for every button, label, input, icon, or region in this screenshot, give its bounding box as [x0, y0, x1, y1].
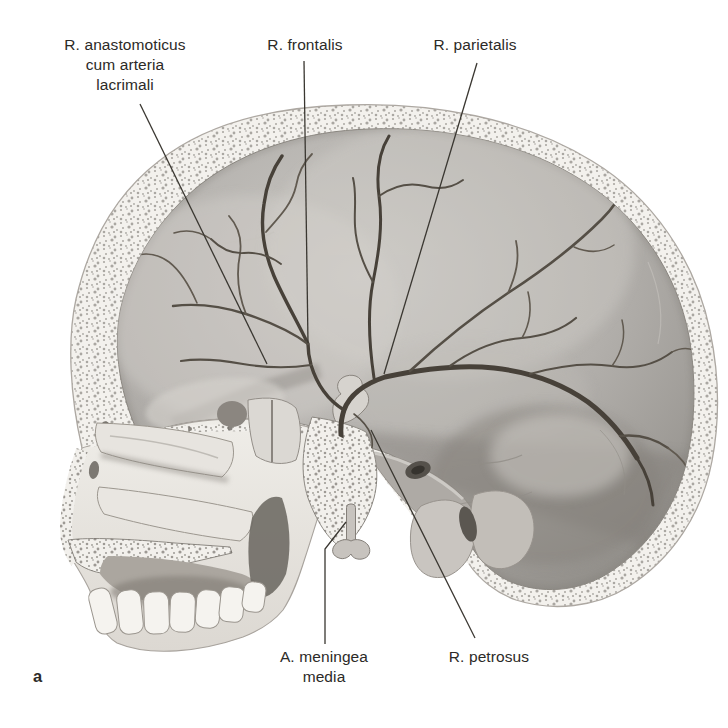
tooth: [116, 589, 144, 635]
tooth: [218, 586, 246, 623]
tooth: [143, 592, 169, 635]
figure-canvas: R. anastomoticus cum arteria lacrimali R…: [0, 0, 728, 728]
label-anastomoticus: R. anastomoticus cum arteria lacrimali: [25, 35, 225, 95]
facial-skeleton: [65, 398, 377, 651]
label-frontalis: R. frontalis: [247, 35, 363, 55]
label-meningea-media: A. meningea media: [264, 647, 384, 687]
tooth: [241, 581, 267, 614]
skull-illustration: [0, 0, 728, 728]
tooth: [195, 589, 222, 629]
sphenoid-sinus-body: [248, 398, 301, 463]
stump-foot: [333, 540, 370, 560]
mastoid-bump: [471, 491, 535, 569]
label-petrosus: R. petrosus: [431, 647, 547, 667]
sphenoid-sinus-opening: [217, 401, 247, 427]
label-parietalis: R. parietalis: [417, 35, 533, 55]
tooth: [169, 592, 195, 633]
figure-caption-letter: a: [33, 667, 42, 686]
